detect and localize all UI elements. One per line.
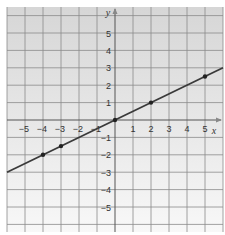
y-tick-label: 2 [106,81,111,91]
y-tick-label: −1 [101,133,111,143]
y-tick-label: 1 [106,98,111,108]
x-tick-label: 2 [148,124,153,134]
x-tick-label: 5 [202,124,207,134]
x-axis-label: x [211,125,217,136]
y-tick-label: 3 [106,63,111,73]
data-point [41,153,45,157]
data-point [149,100,153,104]
y-tick-label: −5 [101,203,111,213]
y-tick-label: 5 [106,29,111,39]
y-tick-label: −4 [101,185,111,195]
y-tick-label: 4 [106,46,111,56]
x-tick-label: 1 [130,124,135,134]
line-chart: xy −5−4−3−2−11234554321−1−2−3−4−5 [0,0,225,235]
x-tick-label: 4 [184,124,189,134]
x-tick-label: −2 [73,124,83,134]
y-tick-label: −2 [101,150,111,160]
x-tick-label: 3 [166,124,171,134]
x-tick-label: −4 [37,124,47,134]
data-point [113,118,117,122]
x-tick-label: −5 [19,124,29,134]
x-tick-label: −3 [55,124,65,134]
y-axis-label: y [105,7,111,18]
data-point [203,74,207,78]
y-tick-label: −3 [101,168,111,178]
data-point [59,144,63,148]
